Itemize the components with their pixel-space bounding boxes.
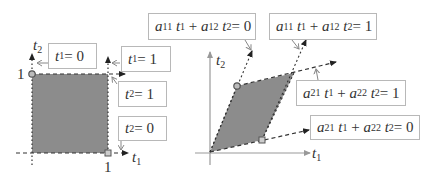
label-a11-a12-eq-0: a11 t1 + a12 t2= 0 xyxy=(148,13,256,40)
square-marker-right xyxy=(259,137,265,143)
left-t2-axis-label: t2 xyxy=(33,38,42,55)
left-tick-x-1: 1 xyxy=(104,160,112,175)
right-t1-axis-label: t1 xyxy=(312,146,321,163)
left-t1-axis-label: t1 xyxy=(132,150,141,167)
circle-marker-right xyxy=(234,83,240,89)
left-unit-square-diagram xyxy=(16,54,128,165)
label-t2-eq-0: t2= 0 xyxy=(118,116,167,141)
circle-marker-0-1 xyxy=(29,71,35,77)
unit-square-region xyxy=(32,74,108,153)
square-marker-1-0 xyxy=(105,150,111,156)
label-t1-eq-1: t1= 1 xyxy=(121,46,171,72)
left-tick-y-1: 1 xyxy=(17,67,25,82)
right-t2-axis-label: t2 xyxy=(216,53,225,70)
pointer-a11-a12-eq-1 xyxy=(292,40,299,49)
parallelogram-region xyxy=(210,73,294,152)
pointer-a21-a22-eq-1 xyxy=(316,69,318,80)
pointer-t2-eq-1 xyxy=(112,77,117,84)
label-a21-a22-eq-1: a21 t1 + a22 t2= 1 xyxy=(296,80,406,106)
label-a21-a22-eq-0: a21 t1 + a22 t2= 0 xyxy=(310,115,420,140)
pointer-a11-a12-eq-0 xyxy=(245,40,251,50)
label-t2-eq-1: t2= 1 xyxy=(118,81,167,107)
label-t1-eq-0: t1= 0 xyxy=(48,43,97,69)
label-a11-a12-eq-1: a11 t1 + a12 t2= 1 xyxy=(269,13,377,40)
